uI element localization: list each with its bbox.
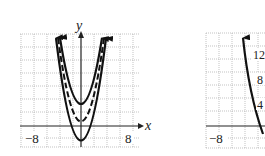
y-tick-4: 4 <box>257 98 263 112</box>
y-tick-8: 8 <box>257 73 263 87</box>
x-axis-label: x <box>144 118 152 133</box>
y-axis-label: y <box>74 18 83 33</box>
x-tick-neg8: −8 <box>25 131 39 146</box>
x-axis-arrow-icon <box>138 123 144 129</box>
right-graph: 12 8 4 −8 <box>206 33 265 148</box>
right-x-tick-neg8: −8 <box>209 131 223 146</box>
x-tick-8: 8 <box>125 131 132 146</box>
chart-canvas: y x −8 8 12 8 4 <box>0 0 265 156</box>
left-graph: y x −8 8 <box>20 18 152 147</box>
y-tick-12: 12 <box>253 48 265 62</box>
